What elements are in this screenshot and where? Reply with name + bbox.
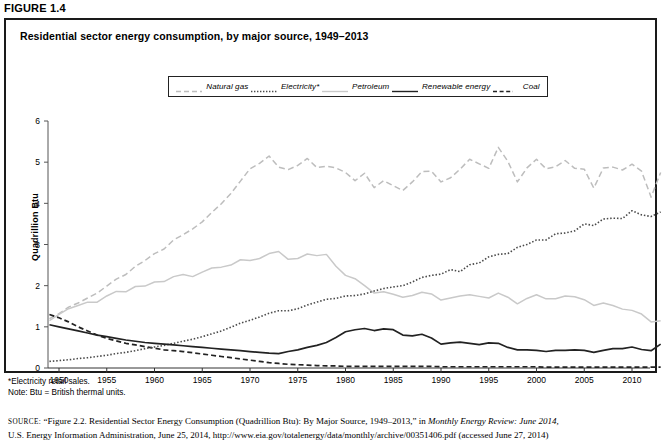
figure-page: FIGURE 1.4 Residential sector energy con… [0, 0, 663, 448]
legend-electricity-label: Electricity* [281, 82, 320, 91]
chart-legend: Natural gasElectricity*PetroleumRenewabl… [168, 76, 548, 97]
y-axis-title: Quadrillion Btu [30, 172, 40, 282]
note-btu: Note: Btu = British thermal units. [8, 388, 648, 399]
legend-coal-label: Coal [523, 82, 540, 91]
source-block: SOURCE: “Figure 2.2. Residential Sector … [8, 415, 656, 441]
legend-petroleum-label: Petroleum [352, 82, 389, 91]
legend-coal: Coal [493, 82, 540, 91]
chart-notes: *Electricity retail sales. Note: Btu = B… [8, 377, 648, 398]
legend-electricity-swatch-icon [251, 82, 277, 91]
figure-title: Residential sector energy consumption, b… [20, 30, 368, 42]
legend-electricity: Electricity* [251, 82, 320, 91]
legend-natural-gas-label: Natural gas [206, 82, 248, 91]
legend-natural-gas-swatch-icon [176, 82, 202, 91]
source-line1-italic: Monthly Energy Review: June 2014, [428, 416, 559, 426]
legend-petroleum-swatch-icon [322, 82, 348, 91]
source-line1-a: “Figure 2.2. Residential Sector Energy C… [43, 416, 428, 426]
figure-label: FIGURE 1.4 [4, 2, 66, 14]
footnote-electricity: *Electricity retail sales. [8, 377, 648, 388]
legend-renewable-energy-swatch-icon [392, 82, 418, 91]
legend-renewable-energy-label: Renewable energy [422, 82, 490, 91]
figure-box: Residential sector energy consumption, b… [4, 18, 657, 373]
legend-renewable-energy: Renewable energy [392, 82, 490, 91]
source-prefix: SOURCE: [8, 418, 41, 426]
legend-petroleum: Petroleum [322, 82, 389, 91]
legend-coal-swatch-icon [493, 82, 519, 91]
legend-natural-gas: Natural gas [176, 82, 248, 91]
source-line2: U.S. Energy Information Administration, … [8, 430, 548, 440]
